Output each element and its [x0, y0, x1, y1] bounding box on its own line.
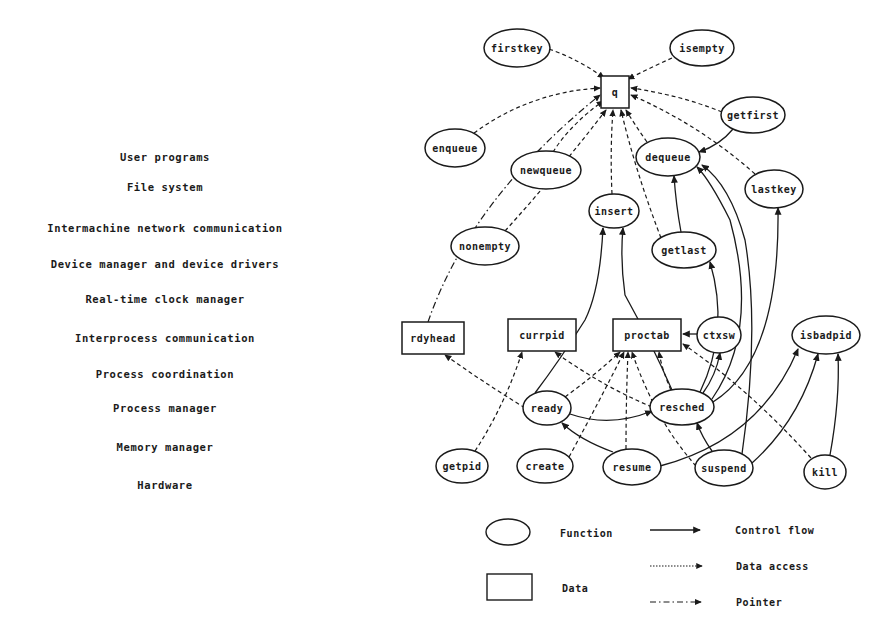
node-kill: kill — [804, 455, 846, 489]
node-label: getpid — [442, 461, 481, 472]
edge-insert-to-q — [611, 110, 613, 194]
edge-ready-to-rdyhead — [445, 355, 525, 408]
node-suspend: suspend — [695, 450, 753, 486]
node-label: resume — [612, 462, 651, 473]
node-label: newqueue — [520, 165, 572, 176]
node-isbadpid: isbadpid — [792, 316, 860, 354]
node-isempty: isempty — [670, 30, 734, 66]
node-rdyhead: rdyhead — [402, 322, 464, 354]
node-label: nonempty — [459, 241, 511, 252]
node-enqueue: enqueue — [425, 129, 485, 167]
legend-control-flow-label: Control flow — [735, 525, 815, 536]
node-resume: resume — [603, 449, 661, 485]
edge-kill-to-isbadpid — [830, 354, 838, 455]
node-proctab: proctab — [613, 319, 681, 351]
edge-ready-to-resched — [570, 411, 652, 420]
edge-suspend-to-isbadpid — [752, 354, 818, 463]
node-getlast: getlast — [652, 232, 716, 268]
node-label: q — [612, 87, 619, 98]
node-lastkey: lastkey — [745, 170, 803, 208]
edge-ready-to-proctab — [565, 352, 620, 397]
node-label: dequeue — [645, 152, 691, 163]
node-label: rdyhead — [410, 333, 456, 344]
node-label: ready — [531, 403, 564, 414]
node-newqueue: newqueue — [511, 151, 581, 189]
call-graph-diagram: firstkeyisemptyqgetfirstenqueuedequeuene… — [0, 0, 885, 640]
legend-pointer-label: Pointer — [736, 597, 782, 608]
edge-getpid-to-currpid — [475, 352, 522, 451]
node-label: kill — [812, 467, 838, 478]
edge-resume-to-ready — [562, 423, 613, 452]
node-resched: resched — [650, 389, 714, 425]
edge-getlast-to-dequeue — [674, 176, 681, 232]
node-label: proctab — [624, 330, 670, 341]
node-label: currpid — [519, 330, 565, 341]
node-layer: firstkeyisemptyqgetfirstenqueuedequeuene… — [402, 29, 860, 489]
node-label: enqueue — [432, 143, 478, 154]
edge-ready-to-insert — [535, 228, 603, 393]
node-label: getlast — [661, 245, 707, 256]
edge-dequeue-to-q — [626, 110, 647, 142]
edge-getfirst-to-q — [631, 88, 722, 112]
legend-data-access-label: Data access — [736, 561, 809, 572]
legend-function-shape — [486, 519, 530, 545]
edge-newqueue-to-q — [553, 101, 603, 152]
node-label: resched — [659, 402, 705, 413]
edge-isempty-to-q — [628, 58, 672, 79]
legend-data-shape — [487, 574, 532, 600]
node-ready: ready — [523, 391, 571, 425]
edge-resume-to-proctab — [626, 352, 628, 449]
edge-resched-to-ctxsw — [703, 353, 720, 393]
node-label: firstkey — [491, 43, 543, 54]
node-firstkey: firstkey — [484, 29, 550, 67]
node-label: lastkey — [751, 184, 797, 195]
node-getfirst: getfirst — [721, 97, 785, 133]
node-create: create — [517, 449, 573, 483]
node-label: suspend — [701, 463, 747, 474]
node-label: ctxsw — [703, 330, 736, 341]
node-q: q — [601, 76, 629, 108]
node-label: insert — [594, 206, 633, 217]
node-nonempty: nonempty — [451, 227, 519, 265]
edge-suspend-to-resched — [697, 423, 712, 451]
legend-function-label: Function — [560, 528, 613, 539]
node-label: isbadpid — [800, 330, 852, 341]
legend: Function Data Control flow Data access P… — [486, 519, 815, 608]
legend-data-label: Data — [562, 583, 588, 594]
node-label: isempty — [679, 43, 725, 54]
node-label: getfirst — [727, 110, 779, 121]
edge-resched-to-dequeue — [697, 167, 742, 399]
node-ctxsw: ctxsw — [697, 317, 741, 353]
edge-firstkey-to-q — [549, 49, 604, 78]
edge-resched-to-currpid — [555, 352, 652, 407]
edge-getfirst-to-dequeue — [699, 129, 733, 152]
node-getpid: getpid — [436, 449, 488, 483]
node-insert: insert — [589, 194, 639, 228]
node-dequeue: dequeue — [636, 138, 700, 176]
node-currpid: currpid — [508, 319, 576, 351]
node-label: create — [525, 461, 564, 472]
